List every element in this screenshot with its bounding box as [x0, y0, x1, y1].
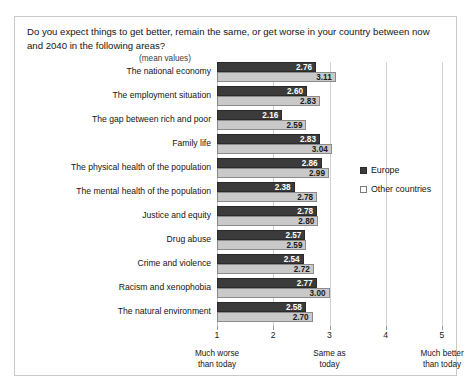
- anchor-line: Same as: [290, 348, 370, 359]
- anchor-line: Much worse: [177, 348, 257, 359]
- category-label: The employment situation: [21, 90, 211, 101]
- bar-value-label: 2.57: [285, 231, 301, 240]
- bar-other-countries: 2.83: [217, 96, 320, 106]
- bar-value-label: 2.38: [275, 183, 291, 192]
- bar-other-countries: 3.04: [217, 144, 332, 154]
- chart-row: The employment situation2.602.83: [217, 86, 442, 110]
- bar-value-label: 2.99: [309, 169, 325, 178]
- chart-row: Crime and violence2.542.72: [217, 254, 442, 278]
- bar-value-label: 2.16: [262, 111, 278, 120]
- chart-row: Family life2.833.04: [217, 134, 442, 158]
- bar-other-countries: 2.70: [217, 312, 313, 322]
- bar-europe: 2.86: [217, 158, 322, 168]
- chart-row: The natural environment2.582.70: [217, 302, 442, 326]
- bar-other-countries: 2.80: [217, 216, 318, 226]
- anchor-line: than today: [402, 359, 471, 370]
- page-title: Do you expect things to get better, rema…: [27, 25, 439, 53]
- legend-item-europe[interactable]: Europe: [360, 165, 431, 175]
- axis-tick-label-4: 4: [374, 330, 398, 340]
- legend-label: Other countries: [371, 184, 431, 194]
- bar-europe: 2.76: [217, 62, 316, 72]
- chart-row: The gap between rich and poor2.162.59: [217, 110, 442, 134]
- axis-tick-label-5: 5: [430, 330, 454, 340]
- bar-value-label: 2.80: [298, 217, 314, 226]
- bar-value-label: 2.76: [296, 63, 312, 72]
- bar-value-label: 3.11: [316, 73, 331, 82]
- category-label: The gap between rich and poor: [21, 114, 211, 125]
- chart-frame: Do you expect things to get better, rema…: [14, 16, 457, 376]
- bar-value-label: 2.77: [297, 279, 313, 288]
- axis-tick-label-3: 3: [318, 330, 342, 340]
- axis-anchor-3: Same astoday: [290, 348, 370, 370]
- bar-value-label: 2.70: [293, 313, 309, 322]
- bar-value-label: 2.78: [297, 207, 313, 216]
- category-label: The mental health of the population: [21, 186, 211, 197]
- anchor-line: Much better: [402, 348, 471, 359]
- axis-tick-label-1: 1: [205, 330, 229, 340]
- bar-europe: 2.16: [217, 110, 282, 120]
- gridline-5: [442, 62, 443, 326]
- bar-value-label: 2.86: [302, 159, 318, 168]
- bar-value-label: 2.54: [284, 255, 300, 264]
- category-label: Racism and xenophobia: [21, 282, 211, 293]
- bar-other-countries: 2.72: [217, 264, 314, 274]
- bar-value-label: 2.58: [286, 303, 302, 312]
- bar-other-countries: 2.59: [217, 240, 306, 250]
- chart-row: The national economy2.763.11: [217, 62, 442, 86]
- bar-value-label: 2.83: [300, 97, 316, 106]
- bar-other-countries: 3.11: [217, 72, 336, 82]
- chart-legend: EuropeOther countries: [360, 165, 431, 203]
- bar-other-countries: 3.00: [217, 288, 330, 298]
- bar-value-label: 2.72: [294, 265, 310, 274]
- chart-row: Drug abuse2.572.59: [217, 230, 442, 254]
- bar-europe: 2.78: [217, 206, 317, 216]
- bar-value-label: 2.78: [297, 193, 313, 202]
- category-label: Justice and equity: [21, 210, 211, 221]
- legend-item-other-countries[interactable]: Other countries: [360, 184, 431, 194]
- bar-europe: 2.60: [217, 86, 307, 96]
- axis-tick-label-2: 2: [261, 330, 285, 340]
- chart-page: Do you expect things to get better, rema…: [0, 0, 471, 390]
- bar-europe: 2.38: [217, 182, 295, 192]
- x-axis: 12345: [217, 326, 442, 342]
- bar-value-label: 2.60: [287, 87, 303, 96]
- bar-europe: 2.58: [217, 302, 306, 312]
- category-label: Crime and violence: [21, 258, 211, 269]
- bar-value-label: 2.59: [287, 241, 303, 250]
- axis-anchor-1: Much worsethan today: [177, 348, 257, 370]
- bar-other-countries: 2.78: [217, 192, 317, 202]
- bar-value-label: 3.00: [310, 289, 326, 298]
- bar-value-label: 2.83: [300, 135, 316, 144]
- bar-other-countries: 2.99: [217, 168, 329, 178]
- bar-europe: 2.54: [217, 254, 304, 264]
- bar-other-countries: 2.59: [217, 120, 306, 130]
- category-label: Drug abuse: [21, 234, 211, 245]
- anchor-line: than today: [177, 359, 257, 370]
- anchor-line: today: [290, 359, 370, 370]
- legend-swatch-icon: [360, 186, 367, 193]
- category-label: Family life: [21, 138, 211, 149]
- bar-europe: 2.83: [217, 134, 320, 144]
- legend-label: Europe: [371, 165, 399, 175]
- bar-europe: 2.57: [217, 230, 305, 240]
- axis-anchor-5: Much betterthan today: [402, 348, 471, 370]
- bar-value-label: 2.59: [287, 121, 303, 130]
- bar-value-label: 3.04: [312, 145, 328, 154]
- bar-europe: 2.77: [217, 278, 317, 288]
- chart-row: Justice and equity2.782.80: [217, 206, 442, 230]
- legend-swatch-icon: [360, 167, 367, 174]
- chart-row: Racism and xenophobia2.773.00: [217, 278, 442, 302]
- category-label: The physical health of the population: [21, 162, 211, 173]
- category-label: The natural environment: [21, 306, 211, 317]
- category-label: The national economy: [21, 66, 211, 77]
